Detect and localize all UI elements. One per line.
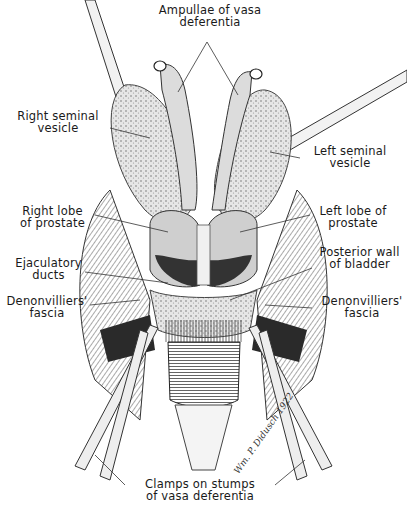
label-right-lobe-prostate: Right lobe of prostate	[10, 205, 95, 229]
label-denonvilliers-left: Denonvilliers' fascia	[318, 295, 406, 319]
label-line: vesicle	[8, 122, 108, 134]
label-line: vesicle	[300, 157, 400, 169]
label-ejaculatory-ducts: Ejaculatory ducts	[6, 257, 91, 281]
bladder-wall	[150, 290, 257, 342]
label-line: fascia	[2, 307, 92, 319]
label-ampullae: Ampullae of vasa deferentia	[150, 4, 270, 28]
label-posterior-wall-bladder: Posterior wall of bladder	[312, 246, 407, 270]
label-left-seminal-vesicle: Left seminal vesicle	[300, 145, 400, 169]
prostate	[150, 211, 257, 287]
rectum	[168, 342, 240, 470]
label-right-seminal-vesicle: Right seminal vesicle	[8, 110, 108, 134]
label-line: of vasa deferentia	[120, 490, 280, 502]
label-ampullae-line2: deferentia	[150, 16, 270, 28]
label-line: ducts	[6, 269, 91, 281]
label-line: of prostate	[10, 217, 95, 229]
label-left-lobe-prostate: Left lobe of prostate	[308, 205, 398, 229]
label-clamps: Clamps on stumps of vasa deferentia	[120, 478, 280, 502]
label-line: fascia	[318, 307, 406, 319]
label-line: of bladder	[312, 258, 407, 270]
retractor-right	[285, 70, 407, 150]
label-denonvilliers-right: Denonvilliers' fascia	[2, 295, 92, 319]
label-line: prostate	[308, 217, 398, 229]
